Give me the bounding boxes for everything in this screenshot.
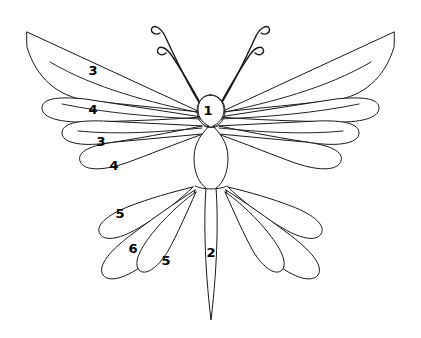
label-5b: 5 [161,253,170,268]
label-3b: 3 [96,134,105,149]
label-1: 1 [203,103,212,118]
label-2: 2 [206,245,215,260]
label-5a: 5 [115,206,124,221]
label-3a: 3 [88,63,97,78]
butterfly-figure: 1 2 3 4 3 4 5 6 5 [0,0,421,338]
label-4b: 4 [109,158,118,173]
butterfly-illustration: 1 2 3 4 3 4 5 6 5 [0,0,421,338]
label-6: 6 [128,241,137,256]
label-4a: 4 [88,102,97,117]
